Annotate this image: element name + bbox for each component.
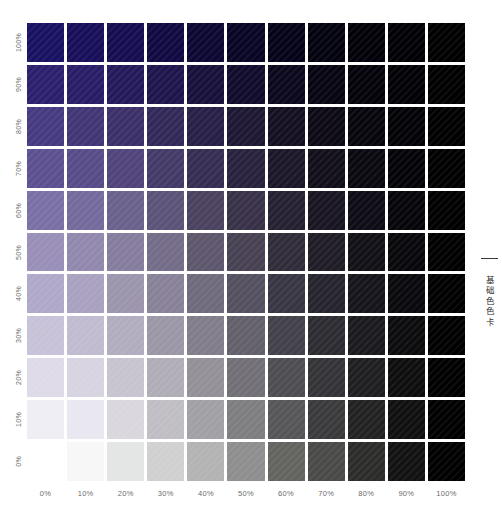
- color-swatch: [428, 107, 465, 146]
- color-swatch: [388, 23, 425, 62]
- color-swatch: [388, 400, 425, 439]
- column-label: 50%: [227, 486, 264, 500]
- color-swatch: [428, 274, 465, 313]
- color-swatch: [187, 23, 224, 62]
- color-swatch: [388, 316, 425, 355]
- color-swatch: [67, 23, 104, 62]
- color-swatch: [107, 23, 144, 62]
- color-swatch: [27, 400, 64, 439]
- color-swatch: [187, 65, 224, 104]
- column-label: 30%: [147, 486, 184, 500]
- color-swatch: [107, 149, 144, 188]
- color-swatch: [227, 442, 264, 481]
- swatch-grid: [27, 23, 465, 481]
- column-axis-labels: 0%10%20%30%40%50%60%70%80%90%100%: [27, 486, 465, 500]
- color-swatch: [227, 107, 264, 146]
- row-label: 30%: [0, 316, 25, 355]
- color-swatch: [268, 149, 305, 188]
- color-swatch: [268, 400, 305, 439]
- column-label: 40%: [187, 486, 224, 500]
- color-swatch: [268, 274, 305, 313]
- color-swatch: [147, 23, 184, 62]
- color-swatch: [348, 358, 385, 397]
- row-label: 40%: [0, 274, 25, 313]
- color-swatch: [67, 442, 104, 481]
- row-axis-labels: 100%90%80%70%60%50%40%30%20%10%0%: [0, 23, 25, 481]
- color-swatch: [147, 149, 184, 188]
- column-label: 60%: [268, 486, 305, 500]
- color-swatch: [348, 233, 385, 272]
- color-swatch: [268, 358, 305, 397]
- color-swatch: [107, 65, 144, 104]
- column-label: 90%: [388, 486, 425, 500]
- row-label-text: 10%: [15, 412, 22, 427]
- color-swatch: [268, 233, 305, 272]
- color-swatch: [308, 149, 345, 188]
- row-label: 0%: [0, 442, 25, 481]
- color-swatch: [107, 107, 144, 146]
- color-swatch: [27, 191, 64, 230]
- color-swatch: [348, 107, 385, 146]
- color-swatch: [27, 442, 64, 481]
- row-label: 90%: [0, 65, 25, 104]
- color-swatch: [187, 149, 224, 188]
- color-swatch: [348, 149, 385, 188]
- column-label: 10%: [67, 486, 104, 500]
- color-swatch: [227, 400, 264, 439]
- color-swatch: [227, 274, 264, 313]
- color-swatch: [388, 442, 425, 481]
- color-swatch: [147, 65, 184, 104]
- row-label: 60%: [0, 191, 25, 230]
- row-label-text: 100%: [15, 33, 22, 52]
- column-label: 70%: [308, 486, 345, 500]
- caption-rule: [481, 258, 498, 259]
- color-swatch: [67, 107, 104, 146]
- color-swatch: [268, 23, 305, 62]
- color-swatch: [27, 358, 64, 397]
- color-swatch: [308, 400, 345, 439]
- color-swatch: [187, 358, 224, 397]
- color-swatch: [147, 107, 184, 146]
- color-swatch: [227, 233, 264, 272]
- color-swatch: [308, 191, 345, 230]
- color-swatch: [147, 191, 184, 230]
- color-swatch: [428, 65, 465, 104]
- color-swatch: [147, 358, 184, 397]
- row-label-text: 70%: [15, 161, 22, 176]
- color-swatch: [348, 191, 385, 230]
- row-label: 70%: [0, 149, 25, 188]
- color-swatch: [227, 358, 264, 397]
- color-swatch: [187, 442, 224, 481]
- row-label: 100%: [0, 23, 25, 62]
- color-swatch: [107, 274, 144, 313]
- row-label-text: 60%: [15, 203, 22, 218]
- row-label: 50%: [0, 233, 25, 272]
- color-swatch: [67, 358, 104, 397]
- color-swatch: [147, 274, 184, 313]
- color-swatch: [187, 400, 224, 439]
- color-swatch: [308, 233, 345, 272]
- color-swatch: [187, 274, 224, 313]
- color-swatch: [27, 149, 64, 188]
- color-swatch: [187, 316, 224, 355]
- color-swatch: [308, 442, 345, 481]
- color-swatch: [107, 316, 144, 355]
- color-swatch: [428, 400, 465, 439]
- color-swatch: [348, 23, 385, 62]
- color-swatch: [388, 358, 425, 397]
- color-swatch: [27, 107, 64, 146]
- color-swatch: [27, 65, 64, 104]
- color-swatch: [348, 442, 385, 481]
- color-swatch: [67, 191, 104, 230]
- color-swatch: [388, 274, 425, 313]
- row-label: 10%: [0, 400, 25, 439]
- color-swatch: [147, 442, 184, 481]
- color-swatch: [67, 149, 104, 188]
- row-label-text: 40%: [15, 286, 22, 301]
- color-swatch: [428, 149, 465, 188]
- color-swatch: [227, 23, 264, 62]
- row-label-text: 20%: [15, 370, 22, 385]
- color-swatch: [27, 23, 64, 62]
- row-label-text: 90%: [15, 77, 22, 92]
- color-swatch: [227, 149, 264, 188]
